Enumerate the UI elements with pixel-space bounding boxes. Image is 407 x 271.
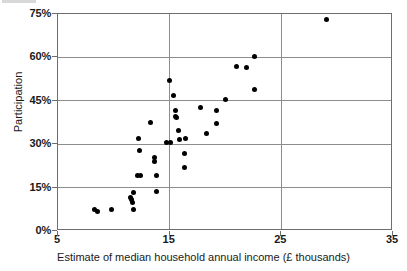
- y-tick-mark: [52, 100, 57, 101]
- data-point: [214, 121, 219, 126]
- data-point: [154, 173, 159, 178]
- data-point: [252, 87, 257, 92]
- data-point: [131, 190, 136, 195]
- data-point: [182, 165, 187, 170]
- gridline-horizontal: [58, 187, 391, 188]
- data-point: [174, 115, 179, 120]
- plot-area: [57, 13, 392, 230]
- data-point: [131, 207, 136, 212]
- data-point: [137, 148, 142, 153]
- data-point: [234, 64, 239, 69]
- x-tick-mark: [57, 231, 58, 236]
- data-point: [223, 97, 228, 102]
- data-point: [109, 207, 114, 212]
- y-tick-mark: [52, 56, 57, 57]
- data-point: [136, 136, 141, 141]
- gridline-vertical: [169, 14, 170, 229]
- data-point: [152, 159, 157, 164]
- data-point: [214, 108, 219, 113]
- gridline-horizontal: [58, 144, 391, 145]
- y-axis-title: Participation: [12, 37, 24, 167]
- gridline-horizontal: [58, 57, 391, 58]
- data-point: [177, 137, 182, 142]
- x-axis-title: Estimate of median household annual inco…: [0, 251, 407, 264]
- y-axis: 0%15%30%45%60%75%: [0, 0, 51, 271]
- y-tick-label: 15%: [9, 182, 51, 193]
- data-point: [138, 173, 143, 178]
- data-point: [183, 136, 188, 141]
- y-tick-mark: [52, 143, 57, 144]
- x-tick-label: 35: [372, 234, 407, 245]
- data-point: [171, 93, 176, 98]
- x-tick-mark: [280, 231, 281, 236]
- data-point: [198, 105, 203, 110]
- x-tick-mark: [392, 231, 393, 236]
- scatter-chart: 0%15%30%45%60%75% Participation 5152535 …: [0, 0, 407, 271]
- data-point: [130, 200, 135, 205]
- x-tick-mark: [169, 231, 170, 236]
- data-point: [167, 78, 172, 83]
- data-point: [204, 131, 209, 136]
- data-point: [173, 108, 178, 113]
- data-point: [95, 209, 100, 214]
- data-point: [148, 120, 153, 125]
- data-point: [154, 189, 159, 194]
- data-point: [176, 128, 181, 133]
- y-tick-mark: [52, 13, 57, 14]
- data-point: [182, 151, 187, 156]
- data-point: [324, 17, 329, 22]
- y-tick-mark: [52, 187, 57, 188]
- y-tick-label: 75%: [9, 8, 51, 19]
- gridline-vertical: [281, 14, 282, 229]
- data-point: [244, 65, 249, 70]
- data-point: [252, 54, 257, 59]
